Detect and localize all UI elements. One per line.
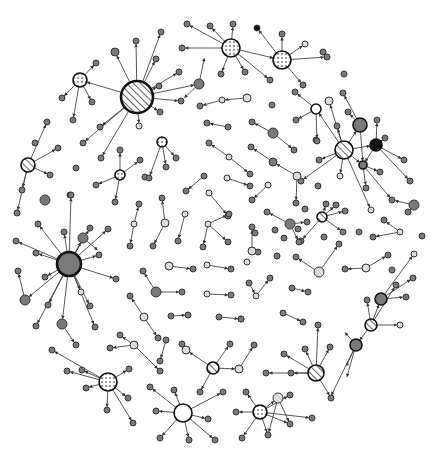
leaf-node[interactable]: [179, 289, 185, 295]
leaf-node[interactable]: [35, 221, 41, 227]
leaf-node[interactable]: [151, 287, 161, 297]
leaf-node[interactable]: [61, 229, 67, 235]
leaf-node[interactable]: [254, 25, 260, 31]
leaf-node[interactable]: [356, 229, 362, 235]
leaf-node[interactable]: [249, 224, 255, 230]
leaf-node[interactable]: [157, 435, 163, 441]
leaf-node[interactable]: [96, 252, 102, 258]
leaf-node[interactable]: [131, 221, 137, 227]
leaf-node[interactable]: [68, 192, 74, 198]
leaf-node[interactable]: [183, 188, 189, 194]
leaf-node[interactable]: [397, 322, 403, 328]
leaf-node[interactable]: [419, 233, 425, 239]
leaf-node[interactable]: [341, 71, 347, 77]
hub-node-h15[interactable]: [308, 365, 324, 381]
leaf-node[interactable]: [216, 314, 222, 320]
leaf-node[interactable]: [314, 138, 320, 144]
leaf-node[interactable]: [133, 38, 139, 44]
leaf-node[interactable]: [363, 185, 369, 191]
leaf-node[interactable]: [225, 239, 231, 245]
leaf-node[interactable]: [411, 251, 417, 257]
leaf-node[interactable]: [233, 409, 239, 415]
leaf-node[interactable]: [228, 292, 234, 298]
leaf-node[interactable]: [175, 238, 181, 244]
hub-node-h4[interactable]: [273, 51, 291, 69]
leaf-node[interactable]: [32, 140, 38, 146]
leaf-node[interactable]: [179, 45, 185, 51]
leaf-node[interactable]: [291, 147, 297, 153]
leaf-node[interactable]: [33, 250, 39, 256]
leaf-node[interactable]: [13, 238, 19, 244]
leaf-node[interactable]: [342, 266, 348, 272]
hub-node-h16[interactable]: [365, 319, 377, 331]
leaf-node[interactable]: [98, 155, 104, 161]
leaf-node[interactable]: [87, 303, 93, 309]
leaf-node[interactable]: [146, 175, 152, 181]
leaf-node[interactable]: [93, 182, 99, 188]
leaf-node[interactable]: [295, 226, 301, 232]
leaf-node[interactable]: [79, 367, 85, 373]
leaf-node[interactable]: [57, 319, 67, 329]
leaf-node[interactable]: [161, 219, 169, 227]
leaf-node[interactable]: [205, 416, 211, 422]
leaf-node[interactable]: [228, 266, 234, 272]
leaf-node[interactable]: [14, 210, 20, 216]
leaf-node[interactable]: [302, 41, 308, 47]
leaf-node[interactable]: [225, 124, 231, 130]
leaf-node[interactable]: [105, 226, 111, 232]
leaf-node[interactable]: [178, 98, 184, 104]
leaf-node[interactable]: [246, 280, 252, 286]
leaf-node[interactable]: [197, 103, 203, 109]
leaf-node[interactable]: [248, 247, 256, 255]
hub-node-h2[interactable]: [73, 73, 87, 87]
leaf-node[interactable]: [15, 268, 21, 274]
leaf-node[interactable]: [321, 234, 327, 240]
leaf-node[interactable]: [93, 60, 99, 66]
leaf-node[interactable]: [125, 395, 131, 401]
leaf-node[interactable]: [296, 239, 302, 245]
leaf-node[interactable]: [316, 157, 322, 163]
hub-node-h7[interactable]: [335, 141, 353, 159]
hub-node-h11[interactable]: [311, 104, 321, 114]
leaf-node[interactable]: [289, 285, 295, 291]
leaf-node[interactable]: [393, 282, 399, 288]
leaf-node[interactable]: [251, 342, 257, 348]
leaf-node[interactable]: [382, 135, 388, 141]
hub-node-h6[interactable]: [57, 252, 81, 276]
leaf-node[interactable]: [309, 415, 315, 421]
leaf-node[interactable]: [287, 421, 293, 427]
leaf-node[interactable]: [385, 252, 391, 258]
leaf-node[interactable]: [281, 351, 287, 357]
leaf-node[interactable]: [136, 201, 142, 207]
leaf-node[interactable]: [194, 79, 204, 89]
leaf-node[interactable]: [204, 262, 210, 268]
leaf-node[interactable]: [150, 243, 156, 249]
leaf-node[interactable]: [20, 295, 30, 305]
leaf-node[interactable]: [78, 233, 88, 243]
leaf-node[interactable]: [212, 437, 218, 443]
leaf-node[interactable]: [201, 173, 207, 179]
leaf-node[interactable]: [342, 208, 348, 214]
leaf-node[interactable]: [370, 234, 376, 240]
leaf-node[interactable]: [243, 389, 249, 395]
leaf-node[interactable]: [157, 109, 163, 115]
leaf-node[interactable]: [337, 173, 343, 179]
leaf-node[interactable]: [268, 128, 278, 138]
hub-node-h14[interactable]: [253, 405, 267, 419]
leaf-node[interactable]: [147, 384, 153, 390]
leaf-node[interactable]: [325, 97, 333, 105]
leaf-node[interactable]: [323, 201, 329, 207]
leaf-node[interactable]: [340, 229, 346, 235]
leaf-node[interactable]: [218, 71, 224, 77]
leaf-node[interactable]: [407, 178, 413, 184]
leaf-node[interactable]: [136, 123, 142, 129]
leaf-node[interactable]: [314, 267, 324, 277]
leaf-node[interactable]: [364, 297, 370, 303]
leaf-node[interactable]: [33, 323, 39, 329]
leaf-node[interactable]: [159, 195, 165, 201]
leaf-node[interactable]: [117, 147, 123, 153]
leaf-node[interactable]: [362, 264, 370, 272]
leaf-node[interactable]: [97, 124, 103, 130]
leaf-node[interactable]: [179, 341, 185, 347]
leaf-node[interactable]: [207, 23, 213, 29]
